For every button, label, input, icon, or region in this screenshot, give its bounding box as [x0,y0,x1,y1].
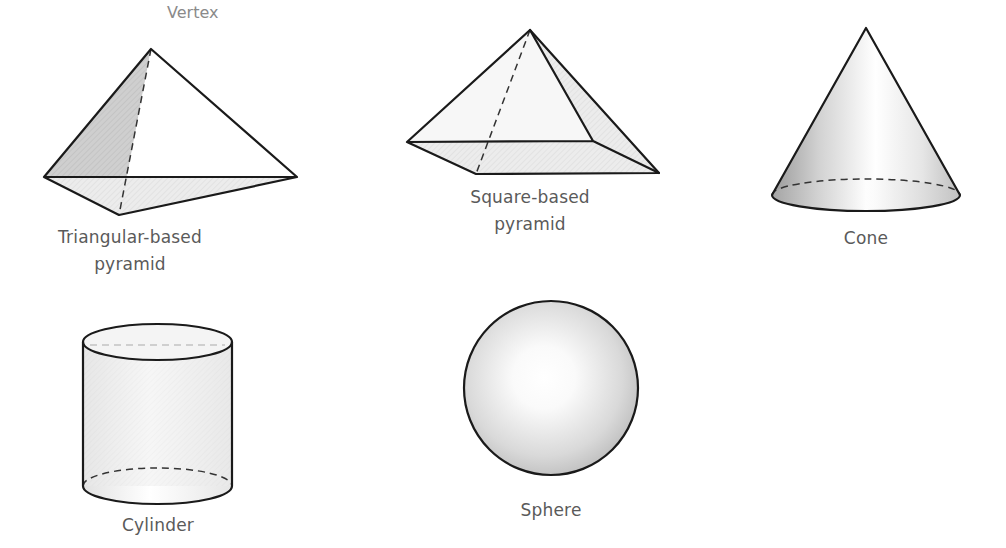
cylinder-hatch [83,342,232,486]
cone [772,28,960,211]
square-pyramid-label: Square-based pyramid [440,184,620,238]
triangular-pyramid [44,49,297,215]
vertex-annotation: Vertex [167,3,218,22]
square-pyramid-label-line1: Square-based [440,184,620,211]
square-pyramid-label-line2: pyramid [440,211,620,238]
sphere-label: Sphere [501,497,601,524]
cone-label: Cone [816,225,916,252]
triangular-pyramid-label-line1: Triangular-based [40,224,220,251]
triangular-pyramid-front-face [127,49,297,177]
triangular-pyramid-label: Triangular-based pyramid [40,224,220,278]
cylinder-label: Cylinder [108,512,208,539]
sphere [464,301,638,475]
triangular-pyramid-label-line2: pyramid [40,251,220,278]
cylinder [83,324,232,504]
square-pyramid [407,30,659,174]
